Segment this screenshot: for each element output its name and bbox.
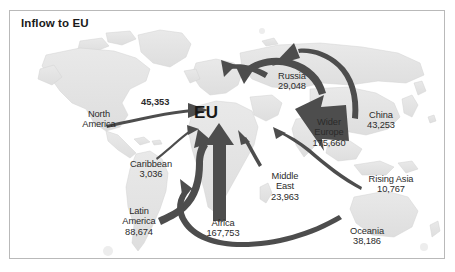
flow-arrow-middle-east: [238, 130, 262, 167]
value-latin-america: 88,674: [108, 227, 170, 237]
label-africa: Africa 167,753: [192, 218, 254, 239]
label-middle-east: Middle East 23,963: [256, 171, 314, 202]
label-latin-america-line2: America: [108, 216, 170, 226]
label-wider-europe-line1: Wider: [298, 117, 360, 127]
flow-arrow-africa: [204, 123, 234, 221]
label-north-america: North America: [68, 109, 130, 130]
label-rising-asia-name: Rising Asia: [352, 174, 430, 184]
label-caribbean-name: Caribbean: [120, 159, 182, 169]
value-north-america: 45,353: [141, 97, 169, 107]
label-rising-asia: Rising Asia 10,767: [352, 174, 430, 195]
value-middle-east: 23,963: [256, 192, 314, 202]
label-middle-east-line1: Middle: [256, 171, 314, 181]
value-caribbean: 3,036: [120, 169, 182, 179]
value-oceania: 38,186: [334, 236, 400, 246]
label-latin-america-line1: Latin: [108, 206, 170, 216]
label-russia-name: Russia: [263, 71, 321, 81]
label-wider-europe-line2: Europe: [298, 127, 360, 137]
value-russia: 29,048: [263, 81, 321, 91]
label-north-america-line1: North: [68, 109, 130, 119]
label-middle-east-line2: East: [256, 181, 314, 191]
label-caribbean: Caribbean 3,036: [120, 159, 182, 180]
label-china-name: China: [352, 110, 410, 120]
label-north-america-line2: America: [68, 119, 130, 129]
label-russia: Russia 29,048: [263, 71, 321, 92]
value-africa: 167,753: [192, 228, 254, 238]
label-oceania-name: Oceania: [334, 226, 400, 236]
page-title: Inflow to EU: [21, 17, 89, 29]
label-oceania: Oceania 38,186: [334, 226, 400, 247]
flow-arrow-caribbean: [156, 125, 199, 160]
label-latin-america: Latin America 88,674: [108, 206, 170, 237]
label-africa-name: Africa: [192, 218, 254, 228]
hub-label-eu: EU: [194, 103, 218, 123]
label-china: China 43,253: [352, 110, 410, 131]
inflow-to-eu-figure: Inflow to EU EU North America 45,353 Car…: [9, 10, 445, 259]
label-wider-europe: Wider Europe 175,660: [298, 117, 360, 148]
value-wider-europe: 175,660: [298, 138, 360, 148]
value-china: 43,253: [352, 120, 410, 130]
value-rising-asia: 10,767: [352, 184, 430, 194]
